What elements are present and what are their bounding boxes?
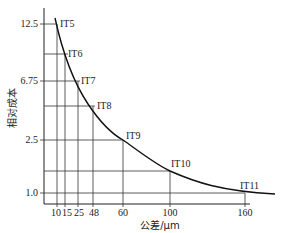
point-label-it9: IT9 xyxy=(126,130,140,141)
x-tick-160: 160 xyxy=(238,207,253,218)
x-tick-60: 60 xyxy=(118,207,128,218)
x-tick-25: 25 xyxy=(74,207,84,218)
point-label-it11: IT11 xyxy=(240,180,259,191)
vertical-gridlines xyxy=(57,24,245,207)
y-axis-title: 相对成本 xyxy=(6,88,18,128)
x-axis-title: 公差/μm xyxy=(140,219,179,231)
y-tick-1.0: 1.0 xyxy=(26,187,39,198)
point-label-it7: IT7 xyxy=(81,75,95,86)
y-tick-2.5: 2.5 xyxy=(26,134,39,145)
cost-tolerance-chart: 12.5 6.75 2.5 1.0 10 15 25 48 60 100 160… xyxy=(0,0,282,233)
y-tick-6.75: 6.75 xyxy=(21,75,39,86)
x-tick-10: 10 xyxy=(51,207,61,218)
y-tick-12.5: 12.5 xyxy=(21,18,39,29)
point-label-it8: IT8 xyxy=(97,100,111,111)
point-label-it5: IT5 xyxy=(60,18,74,29)
x-tick-100: 100 xyxy=(163,207,178,218)
point-label-it6: IT6 xyxy=(68,48,82,59)
x-tick-48: 48 xyxy=(89,207,99,218)
point-label-it10: IT10 xyxy=(171,158,190,169)
x-tick-15: 15 xyxy=(62,207,72,218)
